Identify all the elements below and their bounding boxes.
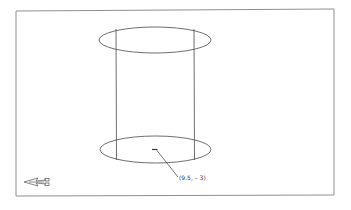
drawing-canvas: (9.5, – 3)	[0, 0, 351, 210]
cylinder-right-edge	[194, 29, 195, 160]
ucs-icon	[24, 178, 49, 186]
viewport-frame	[16, 9, 334, 196]
leader-line	[157, 151, 178, 178]
coordinate-label: (9.5, – 3)	[179, 174, 206, 181]
cylinder	[99, 27, 211, 163]
cylinder-left-edge	[116, 29, 117, 160]
